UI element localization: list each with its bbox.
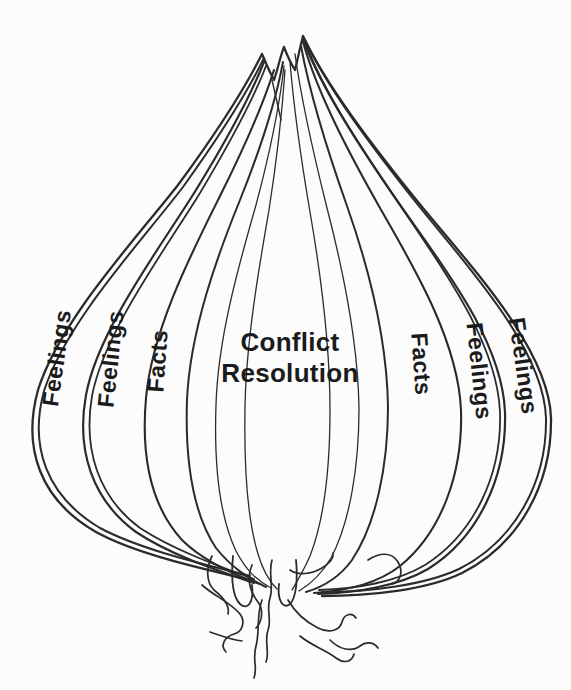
onion-neck-hooks bbox=[232, 556, 297, 606]
layer-label-conflict-resolution: Conflict Resolution bbox=[221, 327, 358, 389]
onion-layer-line-left-4 bbox=[187, 62, 283, 587]
conflict-resolution-onion-diagram: Feelings Feelings Facts Conflict Resolut… bbox=[0, 0, 571, 690]
layer-label-facts-left: Facts bbox=[142, 329, 173, 393]
layer-label-facts-right: Facts bbox=[405, 332, 436, 396]
onion-layer-line-right-6 bbox=[290, 62, 330, 590]
onion-layer-line-right-3 bbox=[303, 42, 461, 593]
onion-layer-line-right-2b bbox=[305, 42, 500, 590]
onion-layer-line-right-5 bbox=[295, 54, 359, 591]
onion-skin-right-outer bbox=[303, 36, 551, 596]
onion-layer-line-right-4 bbox=[301, 46, 388, 592]
center-label-line1: Conflict bbox=[221, 327, 358, 358]
center-label-line2: Resolution bbox=[221, 358, 358, 389]
onion-tip-notch-right bbox=[284, 36, 303, 70]
onion-layer-line-right-2a bbox=[303, 39, 505, 594]
